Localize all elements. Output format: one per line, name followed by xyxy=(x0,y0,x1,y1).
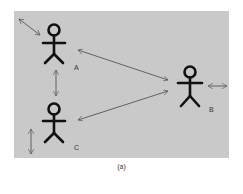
actor-a-label: A xyxy=(74,64,79,71)
arrow-c-b xyxy=(78,91,168,120)
arrow-a-b xyxy=(78,50,168,80)
actor-c-icon xyxy=(43,104,65,143)
actor-a-icon xyxy=(43,25,65,64)
movement-diagonal-icon xyxy=(19,19,40,35)
actor-b-icon xyxy=(178,67,202,107)
actor-c-label: C xyxy=(74,144,79,151)
actor-b-label: B xyxy=(209,106,214,113)
figure-caption: (a) xyxy=(0,163,243,170)
